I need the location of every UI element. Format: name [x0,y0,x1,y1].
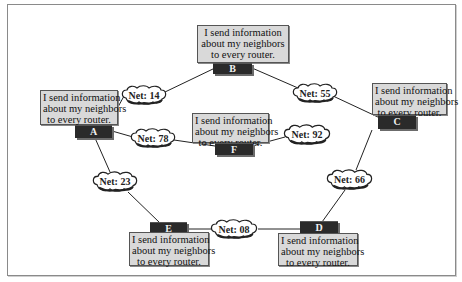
message-line: I send information [375,85,444,96]
network-cloud-55: Net: 55 [291,83,339,103]
message-line: to every router. [43,114,115,125]
message-line: I send information [195,115,266,126]
router-b: B [213,63,252,74]
message-line: about my neighbors [281,246,355,257]
router-a: A [75,125,112,138]
network-cloud-78: Net: 78 [129,128,177,148]
router-e-message: I send information about my neighbors to… [129,232,209,266]
router-d-message: I send information about my neighbors to… [278,233,358,266]
network-label: Net: 78 [129,128,177,148]
network-label: Net: 66 [325,169,374,190]
router-b-message: I send information about my neighbors to… [197,25,289,63]
message-line: to every router. [200,49,286,60]
network-cloud-14: Net: 14 [120,85,168,105]
network-cloud-08: Net: 08 [209,219,259,239]
router-f-message: I send information about my neighbors to… [192,113,269,143]
router-f: F [215,143,253,155]
router-a-message: I send information about my neighbors to… [40,90,118,125]
network-cloud-92: Net: 92 [282,124,332,145]
message-line: about my neighbors [200,38,286,49]
network-label: Net: 14 [120,85,168,105]
message-line: to every router. [281,257,355,268]
router-label: B [229,63,236,74]
message-line: about my neighbors [132,245,206,256]
message-line: I send information [200,27,286,38]
message-line: I send information [281,235,355,246]
network-label: Net: 92 [282,124,332,145]
network-cloud-23: Net: 23 [91,171,139,192]
message-line: about my neighbors [375,96,444,107]
router-label: D [315,222,322,233]
message-line: I send information [132,234,206,245]
router-c: C [378,115,416,129]
message-line: about my neighbors [43,103,115,114]
message-line: to every router. [132,256,206,267]
network-label: Net: 23 [91,171,139,192]
router-c-message: I send information about my neighbors to… [372,83,447,115]
router-label: C [393,116,400,127]
message-line: I send information [43,92,115,103]
router-label: F [231,144,237,155]
network-label: Net: 08 [209,219,259,239]
message-line: about my neighbors [195,126,266,137]
network-cloud-66: Net: 66 [325,169,374,190]
network-label: Net: 55 [291,83,339,103]
router-label: A [90,126,97,137]
